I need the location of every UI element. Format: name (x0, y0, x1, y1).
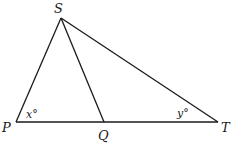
vertex-label-t: T (221, 120, 231, 135)
angle-label-y: y° (176, 107, 189, 120)
vertex-label-p: P (1, 120, 11, 135)
vertex-label-s: S (54, 1, 63, 16)
segment-st (61, 18, 218, 122)
segment-sp (16, 18, 61, 122)
triangle-diagram: S P Q T x° y° (0, 0, 231, 144)
vertex-label-q: Q (98, 128, 109, 143)
segment-sq (61, 18, 104, 122)
angle-label-x: x° (26, 108, 38, 121)
